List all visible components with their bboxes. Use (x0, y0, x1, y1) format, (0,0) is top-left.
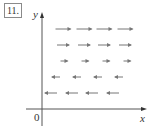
arrow-right-icon (98, 43, 111, 47)
arrow-left-icon (72, 75, 81, 79)
arrow-right-icon (82, 59, 90, 63)
origin-label: 0 (34, 111, 40, 123)
arrow-right-icon (61, 59, 69, 63)
arrow-left-icon (114, 75, 123, 79)
arrow-left-icon (44, 91, 57, 95)
arrow-left-icon (51, 75, 60, 79)
arrow-right-icon (97, 27, 113, 31)
vector-field-arrows (44, 27, 134, 95)
arrow-left-icon (65, 91, 78, 95)
arrow-right-icon (124, 59, 132, 63)
arrow-left-icon (93, 75, 102, 79)
arrow-right-icon (56, 27, 72, 31)
arrow-right-icon (78, 43, 91, 47)
y-axis-arrowhead-icon (40, 12, 44, 18)
y-axis-label: y (32, 8, 38, 20)
arrow-right-icon (103, 59, 111, 63)
arrow-right-icon (118, 27, 134, 31)
x-axis (26, 107, 147, 111)
x-axis-label: x (139, 112, 145, 124)
arrow-left-icon (85, 91, 98, 95)
arrow-right-icon (57, 43, 70, 47)
x-axis-arrowhead-icon (141, 107, 147, 111)
arrow-right-icon (119, 43, 132, 47)
arrow-left-icon (106, 91, 119, 95)
arrow-right-icon (77, 27, 93, 31)
vector-field-plot: y x 0 (0, 0, 148, 129)
